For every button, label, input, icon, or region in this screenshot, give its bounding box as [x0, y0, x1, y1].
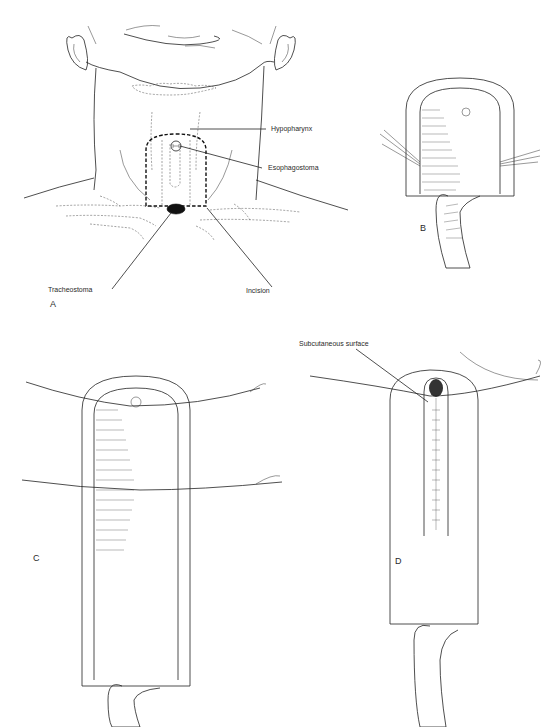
panel-letter-d: D [395, 557, 402, 566]
panel-a-drawing [24, 26, 348, 290]
panel-b-drawing [380, 78, 540, 268]
label-subcutaneous-surface: Subcutaneous surface [299, 340, 369, 347]
panel-letter-a: A [50, 300, 56, 309]
label-hypopharynx: Hypopharynx [271, 125, 312, 132]
panel-d-drawing [310, 349, 541, 727]
label-tracheostoma: Tracheostoma [48, 286, 92, 293]
surgical-illustration [0, 0, 558, 727]
panel-c-drawing [22, 376, 282, 727]
label-esophagostoma: Esophagostoma [268, 164, 319, 171]
label-incision: Incision [246, 287, 270, 294]
panel-letter-b: B [420, 224, 426, 233]
panel-letter-c: C [33, 554, 40, 563]
